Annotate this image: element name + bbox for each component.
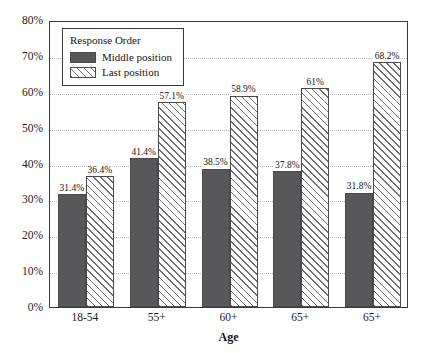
- y-axis-tick-label: 0%: [3, 302, 43, 314]
- bar-value-label: 31.4%: [59, 184, 86, 194]
- legend-swatch-icon: [70, 52, 96, 63]
- bar-value-label: 61%: [306, 78, 325, 88]
- bar: 41.4%: [130, 158, 158, 307]
- bar: 37.8%: [273, 171, 301, 307]
- bar-value-label: 68.2%: [374, 52, 401, 62]
- bar-value-label: 37.8%: [274, 161, 301, 171]
- bar: 38.5%: [202, 169, 230, 307]
- y-axis-tick-label: 70%: [3, 51, 43, 63]
- bar-chart-figure: 0%10%20%30%40%50%60%70%80% 31.4%36.4%41.…: [0, 0, 427, 353]
- y-axis-tick-label: 20%: [3, 230, 43, 242]
- gridline: [50, 94, 407, 95]
- chart-legend: Response Order Middle positionLast posit…: [62, 28, 184, 86]
- legend-item-label: Middle position: [102, 51, 172, 64]
- bar-value-label: 58.9%: [230, 85, 257, 95]
- bar-value-label: 31.8%: [346, 182, 373, 192]
- gridline: [50, 130, 407, 131]
- bar-value-label: 36.4%: [87, 166, 114, 176]
- bar: 58.9%: [230, 96, 258, 307]
- bar-value-label: 41.4%: [130, 148, 157, 158]
- bar: 68.2%: [373, 62, 401, 307]
- bar: 31.8%: [345, 193, 373, 307]
- x-axis-title: Age: [49, 331, 408, 343]
- legend-item: Middle position: [70, 51, 176, 64]
- y-axis-tick-label: 30%: [3, 194, 43, 206]
- legend-swatch-icon: [70, 67, 96, 78]
- y-axis-tick-label: 60%: [3, 87, 43, 99]
- bar-value-label: 38.5%: [202, 158, 229, 168]
- bar: 57.1%: [158, 102, 186, 307]
- legend-title: Response Order: [70, 34, 176, 48]
- legend-item-label: Last position: [102, 66, 159, 79]
- x-axis-tick-label: 65+: [327, 312, 417, 324]
- legend-entries: Middle positionLast position: [70, 51, 176, 79]
- bar: 31.4%: [58, 194, 86, 307]
- bar-value-label: 57.1%: [158, 92, 185, 102]
- y-axis-tick-label: 80%: [3, 15, 43, 27]
- bar: 61%: [301, 88, 329, 307]
- y-axis-tick-label: 10%: [3, 266, 43, 278]
- bar: 36.4%: [86, 176, 114, 307]
- y-axis-tick-label: 40%: [3, 159, 43, 171]
- legend-item: Last position: [70, 66, 176, 79]
- y-axis-tick-label: 50%: [3, 123, 43, 135]
